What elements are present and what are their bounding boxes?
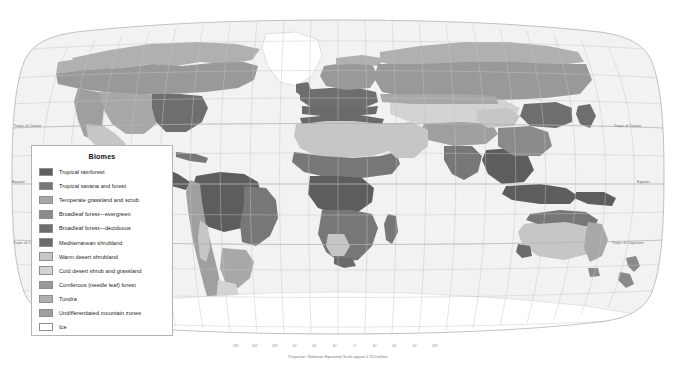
biomes-legend: Biomes Tropical rainforest Tropical sava… xyxy=(31,145,173,336)
legend-swatch-ice xyxy=(39,323,53,332)
legend-label-mediterranean-shrubland: Mediterranean shrubland xyxy=(59,240,122,246)
legend-label-ice: Ice xyxy=(59,324,67,330)
legend-label-broadleaf-forest-deciduous: Broadleaf forest—deciduous xyxy=(59,225,131,231)
lon-label-7: 30° xyxy=(373,344,379,348)
label-tropic-of-cancer-left: Tropic of Cancer xyxy=(14,124,42,128)
legend-swatch-broadleaf-forest-deciduous xyxy=(39,224,53,233)
legend-swatch-temperate-grassland-and-scrub xyxy=(39,196,53,205)
legend-label-tundra: Tundra xyxy=(59,296,77,302)
legend-item-ice: Ice xyxy=(32,320,172,334)
legend-swatch-warm-desert-shrubland xyxy=(39,252,53,261)
legend-label-tropical-rainforest: Tropical rainforest xyxy=(59,169,105,175)
lon-label-2: 120° xyxy=(272,344,279,348)
legend-item-tropical-rainforest: Tropical rainforest xyxy=(32,165,172,179)
legend-swatch-tundra xyxy=(39,295,53,304)
label-equator-right: Equator xyxy=(637,180,651,184)
legend-item-temperate-grassland-and-scrub: Temperate grassland and scrub xyxy=(32,193,172,207)
legend-swatch-broadleaf-forest-evergreen xyxy=(39,210,53,219)
legend-swatch-tropical-savana-and-forest xyxy=(39,182,53,191)
map-page: Tropic of Cancer Equator Tropic of Capri… xyxy=(0,0,677,369)
legend-item-warm-desert-shrubland: Warm desert shrubland xyxy=(32,250,172,264)
lon-label-3: 90° xyxy=(293,344,299,348)
legend-swatch-tropical-rainforest xyxy=(39,168,53,177)
legend-item-broadleaf-forest-evergreen: Broadleaf forest—evergreen xyxy=(32,207,172,221)
legend-item-mediterranean-shrubland: Mediterranean shrubland xyxy=(32,235,172,249)
legend-swatch-mediterranean-shrubland xyxy=(39,238,53,247)
legend-label-coniferous-needle-leaf-forest: Coniferous (needle leaf) forest xyxy=(59,282,136,288)
biome-broadleaf-tasmania xyxy=(588,268,600,277)
lon-label-9: 90° xyxy=(413,344,419,348)
lon-label-1: 150° xyxy=(252,344,259,348)
label-tropic-of-capricorn-right: Tropic of Capricorn xyxy=(612,241,644,245)
lon-label-4: 60° xyxy=(313,344,319,348)
legend-item-broadleaf-forest-deciduous: Broadleaf forest—deciduous xyxy=(32,221,172,235)
lon-label-10: 120° xyxy=(432,344,439,348)
projection-caption: Projection: Robinson Equatorial Scale ap… xyxy=(288,355,387,359)
lon-label-5: 30° xyxy=(333,344,339,348)
legend-label-undifferentiated-mountain-zones: Undifferentiated mountain zones xyxy=(59,310,141,316)
legend-item-tropical-savana-and-forest: Tropical savana and forest xyxy=(32,179,172,193)
longitude-label-row: 180° 150° 120° 90° 60° 30° 0° 30° 60° 90… xyxy=(233,344,439,348)
legend-label-warm-desert-shrubland: Warm desert shrubland xyxy=(59,254,118,260)
lon-label-0: 180° xyxy=(233,344,240,348)
legend-swatch-undifferentiated-mountain-zones xyxy=(39,309,53,318)
legend-swatch-coniferous-needle-leaf-forest xyxy=(39,281,53,290)
legend-label-tropical-savana-and-forest: Tropical savana and forest xyxy=(59,183,126,189)
legend-title: Biomes xyxy=(32,152,172,161)
biome-coniferous-scandinavia xyxy=(320,62,378,90)
legend-item-cold-desert-shrub-and-grassland: Cold desert shrub and grassland xyxy=(32,264,172,278)
legend-label-temperate-grassland-and-scrub: Temperate grassland and scrub xyxy=(59,197,139,203)
legend-item-undifferentiated-mountain-zones: Undifferentiated mountain zones xyxy=(32,306,172,320)
legend-label-cold-desert-shrub-and-grassland: Cold desert shrub and grassland xyxy=(59,268,141,274)
label-equator-left: Equator xyxy=(12,180,26,184)
label-tropic-of-cancer-right: Tropic of Cancer xyxy=(614,124,642,128)
legend-item-tundra: Tundra xyxy=(32,292,172,306)
legend-label-broadleaf-forest-evergreen: Broadleaf forest—evergreen xyxy=(59,211,131,217)
legend-item-coniferous-needle-leaf-forest: Coniferous (needle leaf) forest xyxy=(32,278,172,292)
legend-swatch-cold-desert-shrub-and-grassland xyxy=(39,266,53,275)
lon-label-8: 60° xyxy=(393,344,399,348)
lon-label-6: 0° xyxy=(353,344,357,348)
